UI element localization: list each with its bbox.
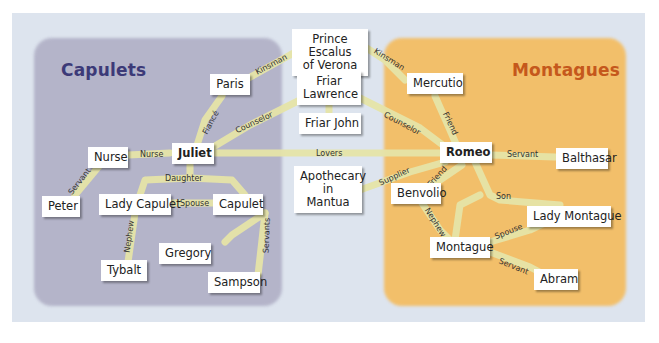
node-paris[interactable]: Paris bbox=[210, 74, 250, 95]
edge-label-daughter: Daughter bbox=[165, 174, 203, 183]
edge-label-son: Son bbox=[496, 192, 511, 201]
node-benvolio[interactable]: Benvolio bbox=[391, 183, 441, 204]
node-nurse[interactable]: Nurse bbox=[88, 147, 128, 168]
edge-label-capulet-spouse: Spouse bbox=[180, 199, 209, 208]
node-lady-capulet[interactable]: Lady Capulet bbox=[99, 194, 171, 215]
node-friar-john[interactable]: Friar John bbox=[299, 113, 361, 134]
node-mercutio[interactable]: Mercutio bbox=[407, 73, 463, 94]
node-tybalt[interactable]: Tybalt bbox=[101, 260, 147, 281]
edge-label-lovers: Lovers bbox=[316, 149, 342, 158]
node-peter[interactable]: Peter bbox=[42, 196, 80, 217]
node-balthasar[interactable]: Balthasar bbox=[556, 148, 608, 169]
node-prince-escalus[interactable]: Prince Escalus of Verona bbox=[292, 29, 368, 76]
node-montague[interactable]: Montague bbox=[430, 237, 490, 258]
edge-label-romeo-balthasar: Servant bbox=[507, 150, 538, 159]
node-abram[interactable]: Abram bbox=[534, 269, 578, 290]
node-lady-montague[interactable]: Lady Montague bbox=[527, 206, 611, 227]
node-capulet[interactable]: Capulet bbox=[213, 194, 263, 215]
edge-label-nurse-juliet: Nurse bbox=[140, 150, 163, 159]
node-sampson[interactable]: Sampson bbox=[208, 272, 260, 293]
node-friar-lawrence[interactable]: Friar Lawrence bbox=[297, 71, 361, 105]
node-apothecary[interactable]: Apothecary in Mantua bbox=[294, 166, 362, 213]
relationship-diagram: Capulets Montagues bbox=[0, 0, 659, 343]
node-romeo[interactable]: Romeo bbox=[440, 142, 492, 163]
node-gregory[interactable]: Gregory bbox=[159, 243, 211, 264]
node-juliet[interactable]: Juliet bbox=[172, 143, 214, 164]
edge-label-capulet-servants: Servants bbox=[262, 218, 272, 254]
